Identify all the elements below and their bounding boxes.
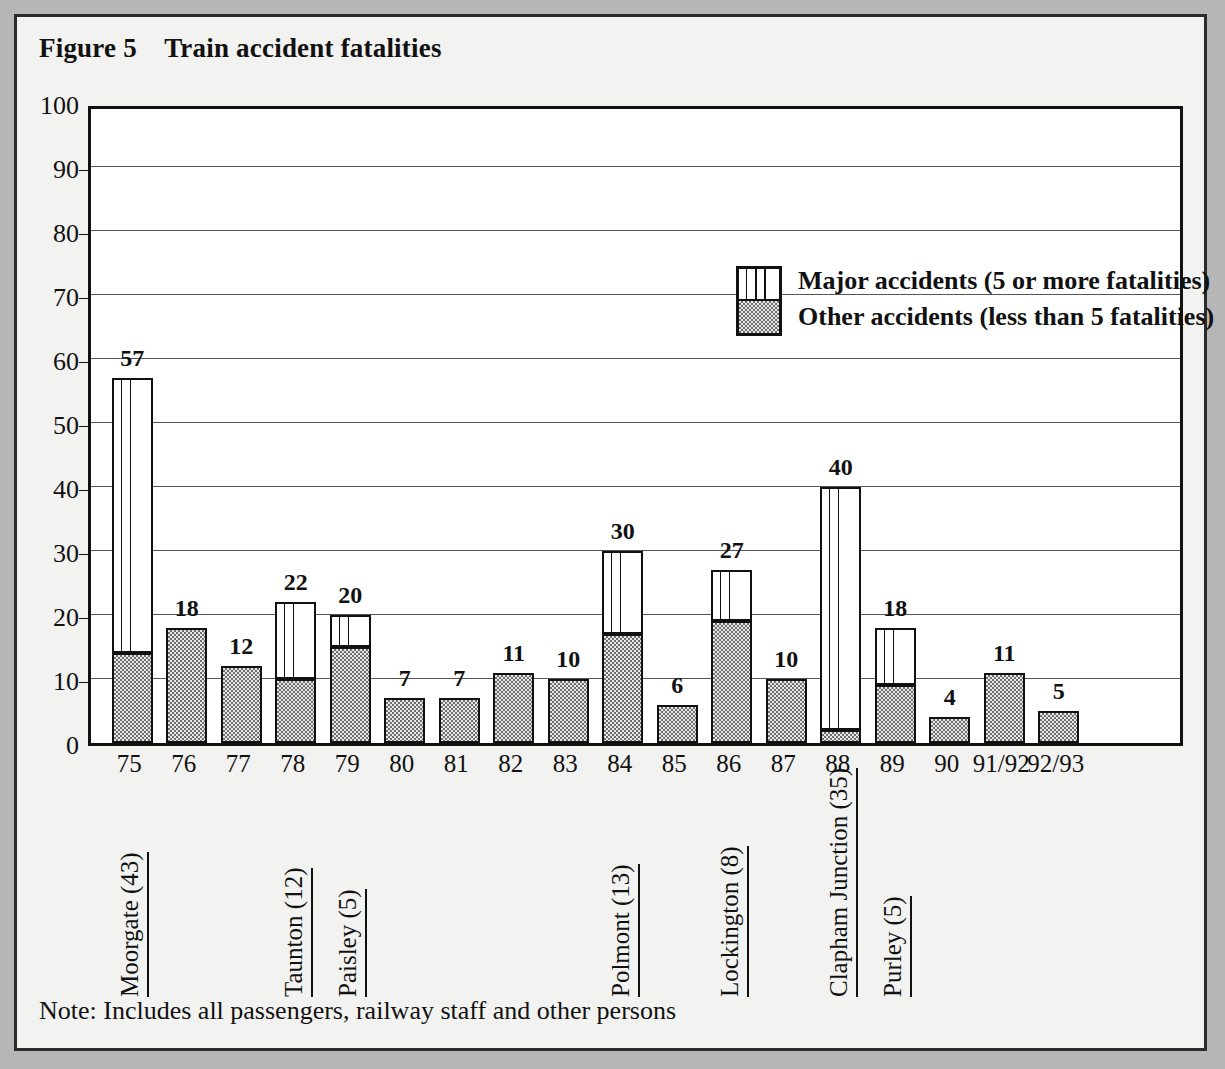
bar-84[interactable]: 30 — [602, 551, 643, 743]
bar-segment-major — [275, 602, 316, 679]
page-title: Figure 5 Train accident fatalities — [39, 33, 442, 64]
bar-value-label: 22 — [284, 569, 308, 596]
bar-86[interactable]: 27 — [711, 570, 752, 743]
bar-92-93[interactable]: 5 — [1038, 711, 1079, 743]
y-axis-tick-label: 10 — [53, 667, 79, 697]
bar-segment-other — [984, 673, 1025, 743]
x-axis-tick-label: 76 — [171, 750, 196, 778]
x-axis-tick-label: 81 — [444, 750, 469, 778]
accident-annotation: Lockington (8) — [716, 846, 749, 997]
bar-value-label: 7 — [399, 665, 411, 692]
x-axis-tick-label: 77 — [226, 750, 251, 778]
bar-value-label: 30 — [611, 518, 635, 545]
bar-segment-major — [112, 378, 153, 653]
accident-annotation: Paisley (5) — [334, 889, 367, 997]
bar-85[interactable]: 6 — [657, 705, 698, 743]
bar-80[interactable]: 7 — [384, 698, 425, 743]
bar-value-label: 7 — [453, 665, 465, 692]
x-axis-tick-label: 85 — [662, 750, 687, 778]
bar-segment-other — [439, 698, 480, 743]
bar-segment-other — [166, 628, 207, 743]
y-axis-tick-label: 80 — [53, 219, 79, 249]
bar-value-label: 12 — [229, 633, 253, 660]
x-axis-tick-label: 92/93 — [1027, 750, 1084, 778]
x-axis-tick-label: 84 — [607, 750, 632, 778]
y-axis-tick-label: 30 — [53, 539, 79, 569]
accident-annotation: Polmont (13) — [607, 864, 640, 997]
bar-segment-major — [330, 615, 371, 647]
bar-value-label: 5 — [1053, 678, 1065, 705]
bar-segment-other — [820, 730, 861, 743]
bar-87[interactable]: 10 — [766, 679, 807, 743]
bar-series-layer: 5718122220771110306271040184115 — [91, 109, 1180, 743]
bar-segment-other — [493, 673, 534, 743]
bar-segment-other — [875, 685, 916, 743]
bar-segment-other — [766, 679, 807, 743]
bar-79[interactable]: 20 — [330, 615, 371, 743]
bar-82[interactable]: 11 — [493, 673, 534, 743]
accident-annotation: Purley (5) — [879, 896, 912, 997]
accident-annotation: Moorgate (43) — [116, 852, 149, 997]
y-axis-tick-label: 20 — [53, 603, 79, 633]
accident-annotation: Clapham Junction (35) — [825, 768, 858, 997]
bar-value-label: 57 — [120, 345, 144, 372]
y-axis-tick-label: 40 — [53, 475, 79, 505]
legend-item-other: Other accidents (less than 5 fatalities) — [798, 299, 1214, 335]
x-axis-tick-label: 86 — [716, 750, 741, 778]
bar-segment-other — [548, 679, 589, 743]
x-axis-tick-label: 82 — [498, 750, 523, 778]
bar-value-label: 10 — [774, 646, 798, 673]
bar-segment-other — [711, 621, 752, 743]
bar-segment-other — [275, 679, 316, 743]
legend-swatch-stack — [736, 266, 782, 336]
bar-78[interactable]: 22 — [275, 602, 316, 743]
striped-pattern-swatch — [739, 269, 779, 301]
gray-fill-swatch — [739, 301, 779, 333]
bar-value-label: 11 — [993, 640, 1016, 667]
bar-81[interactable]: 7 — [439, 698, 480, 743]
figure-note: Note: Includes all passengers, railway s… — [39, 996, 676, 1026]
chart-legend: Major accidents (5 or more fatalities) O… — [736, 263, 1214, 336]
accident-annotation: Taunton (12) — [280, 868, 313, 997]
bar-value-label: 20 — [338, 582, 362, 609]
legend-labels: Major accidents (5 or more fatalities) O… — [798, 263, 1214, 335]
bar-segment-other — [1038, 711, 1079, 743]
x-axis-tick-label: 75 — [117, 750, 142, 778]
bar-segment-other — [602, 634, 643, 743]
bar-segment-other — [112, 653, 153, 743]
bar-value-label: 11 — [502, 640, 525, 667]
bar-value-label: 4 — [944, 684, 956, 711]
bar-77[interactable]: 12 — [221, 666, 262, 743]
bar-value-label: 18 — [175, 595, 199, 622]
y-axis-tick-label: 100 — [40, 91, 79, 121]
x-axis-tick-label: 90 — [934, 750, 959, 778]
bar-89[interactable]: 18 — [875, 628, 916, 743]
bar-90[interactable]: 4 — [929, 717, 970, 743]
bar-segment-other — [384, 698, 425, 743]
bar-segment-other — [330, 647, 371, 743]
plot-area: 5718122220771110306271040184115 Major ac… — [88, 106, 1183, 746]
bar-91-92[interactable]: 11 — [984, 673, 1025, 743]
bar-value-label: 27 — [720, 537, 744, 564]
y-axis: 0102030405060708090100 — [17, 106, 79, 746]
x-axis-tick-label: 83 — [553, 750, 578, 778]
bar-75[interactable]: 57 — [112, 378, 153, 743]
y-axis-tick-label: 90 — [53, 155, 79, 185]
figure-panel: Figure 5 Train accident fatalities 01020… — [14, 14, 1207, 1051]
bar-88[interactable]: 40 — [820, 487, 861, 743]
bar-segment-other — [221, 666, 262, 743]
bar-83[interactable]: 10 — [548, 679, 589, 743]
bar-value-label: 10 — [556, 646, 580, 673]
legend-item-major: Major accidents (5 or more fatalities) — [798, 263, 1214, 299]
y-axis-tick-label: 70 — [53, 283, 79, 313]
bar-value-label: 6 — [671, 672, 683, 699]
bar-76[interactable]: 18 — [166, 628, 207, 743]
bar-value-label: 18 — [883, 595, 907, 622]
bar-segment-major — [711, 570, 752, 621]
x-axis-tick-label: 78 — [280, 750, 305, 778]
bar-value-label: 40 — [829, 454, 853, 481]
x-axis: 7576777879808182838485868788899091/9292/… — [88, 746, 1183, 786]
bar-segment-major — [602, 551, 643, 634]
bar-segment-major — [875, 628, 916, 686]
x-axis-tick-label: 87 — [771, 750, 796, 778]
